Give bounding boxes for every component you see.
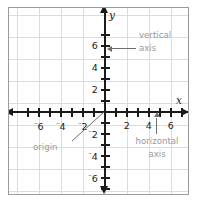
coordinate-plane-figure: ⁻6⁻4⁻2246642⁻2⁻4⁻6 y x vertical axis hor… bbox=[0, 0, 198, 210]
origin-leader-line bbox=[9, 8, 189, 195]
plot-frame: ⁻6⁻4⁻2246642⁻2⁻4⁻6 y x vertical axis hor… bbox=[8, 7, 189, 195]
